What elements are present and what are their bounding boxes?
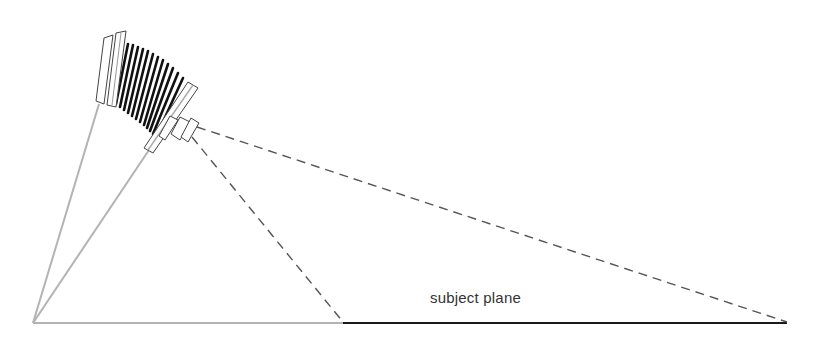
camera-illustration [96,31,199,153]
diagram-canvas [0,0,813,350]
lens-plane-line [33,150,149,323]
subject-plane-label: subject plane [430,289,521,306]
film-plane-line [33,104,99,323]
field-of-view-near-line [192,137,343,322]
